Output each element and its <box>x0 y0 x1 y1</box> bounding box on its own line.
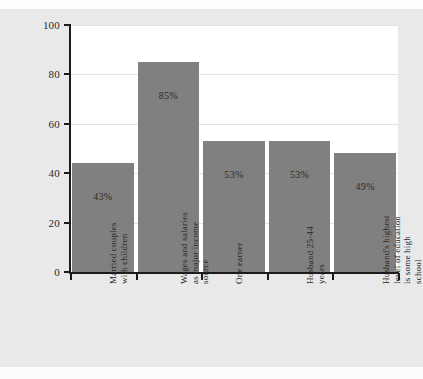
category-label-text: Married coupleswith children <box>108 192 129 284</box>
y-tick-label-60: 60 <box>0 118 60 130</box>
category-label-line: years <box>316 192 327 284</box>
bar-value-label: 85% <box>138 90 200 101</box>
category-label-line: as major income <box>190 192 201 284</box>
category-label-line: is some high <box>402 192 413 284</box>
gridline-80 <box>70 74 398 75</box>
y-axis-line <box>69 24 71 273</box>
category-label-line: school <box>413 192 423 284</box>
y-tick-40 <box>64 172 70 174</box>
y-tick-100 <box>64 24 70 26</box>
category-label-line: Married couples <box>108 192 119 284</box>
gridline-100 <box>70 25 398 26</box>
bar-chart-figure: 020406080100 43%85%53%53%49% Married cou… <box>0 0 423 379</box>
y-tick-label-80: 80 <box>0 68 60 80</box>
category-label-line: Wages and salaries <box>179 192 190 284</box>
category-label-line: One earner <box>234 192 245 284</box>
y-tick-60 <box>64 123 70 125</box>
y-tick-label-100: 100 <box>0 19 60 31</box>
category-label-text: Husband 25-44years <box>305 192 326 284</box>
y-tick-label-20: 20 <box>0 217 60 229</box>
gridline-60 <box>70 124 398 125</box>
bar-value-label: 53% <box>269 169 331 180</box>
y-tick-label-40: 40 <box>0 167 60 179</box>
category-label-text: One earner <box>234 192 245 284</box>
category-label-text: Husband's highestlevel of educationis so… <box>381 192 423 284</box>
y-tick-label-0: 0 <box>0 266 60 278</box>
x-tick <box>136 273 138 280</box>
x-tick <box>267 273 269 280</box>
bar-value-label: 49% <box>334 181 396 192</box>
category-label-line: source <box>200 192 211 284</box>
category-label-line: Husband 25-44 <box>305 192 316 284</box>
x-tick <box>70 273 72 280</box>
x-tick <box>332 273 334 280</box>
category-label-line: Husband's highest <box>381 192 392 284</box>
category-label-text: Wages and salariesas major incomesource <box>179 192 211 284</box>
bar-value-label: 53% <box>203 169 265 180</box>
y-tick-20 <box>64 222 70 224</box>
category-label-line: level of education <box>392 192 403 284</box>
category-label-line: with children <box>119 192 130 284</box>
y-tick-80 <box>64 73 70 75</box>
